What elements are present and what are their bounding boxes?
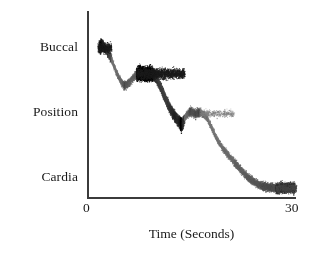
position-time-chart: Buccal Position Cardia 0 30 Time (Second… <box>0 0 319 255</box>
x-axis-title: Time (Seconds) <box>87 226 296 241</box>
y-tick-label-cardia: Cardia <box>41 170 78 184</box>
y-tick-label-buccal: Buccal <box>40 40 78 54</box>
x-tick-label-0: 0 <box>83 201 90 215</box>
x-tick-label-30: 30 <box>285 201 299 215</box>
y-tick-label-position: Position <box>33 105 78 119</box>
